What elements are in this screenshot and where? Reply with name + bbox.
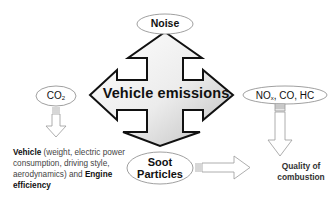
soot-label: Soot Particles xyxy=(128,156,192,180)
nox-main: NO xyxy=(256,90,271,101)
quality-of-combustion: Quality of combustion xyxy=(268,161,328,183)
co2-down-arrow xyxy=(46,108,66,137)
noise-label: Noise xyxy=(137,17,193,29)
vehicle-description: Vehicle (weight, electric power consumpt… xyxy=(13,147,133,191)
vehicle-bold: Vehicle xyxy=(13,148,41,157)
soot-line2: Particles xyxy=(128,168,192,180)
nox-down-arrow xyxy=(268,104,292,156)
nox-label: NOx, CO, HC xyxy=(244,90,326,101)
soot-line1: Soot xyxy=(128,156,192,168)
quality-line1: Quality of xyxy=(268,161,328,172)
soot-right-arrow xyxy=(196,156,250,179)
quality-line2: combustion xyxy=(268,172,328,183)
co2-main: CO xyxy=(47,90,62,101)
center-title: Vehicle emissions xyxy=(96,85,236,101)
nox-rest: , CO, HC xyxy=(274,90,315,101)
co2-sub: 2 xyxy=(62,95,65,101)
co2-label: CO2 xyxy=(36,90,76,101)
